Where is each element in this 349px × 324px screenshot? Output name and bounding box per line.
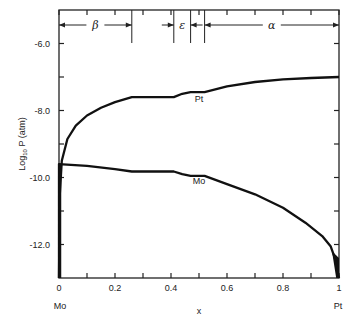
chart: βεα PtMo 00.20.40.60.81-6.0-8.0-10.0-12.… [0,0,349,324]
x-end-label-pt: Pt [334,301,343,311]
curve-label-mo: Mo [193,176,206,186]
x-tick-label: 0.8 [277,283,290,293]
y-axis-title: Log10 P (atm) [17,117,28,171]
y-tick-label: -8.0 [34,106,50,116]
y-tick-label: -6.0 [34,39,50,49]
phase-label-epsilon: ε [179,19,185,32]
x-axis-title: x [197,306,202,316]
phase-label-beta: β [91,19,98,32]
x-tick-label: 1 [336,283,341,293]
plot-border [59,10,339,278]
arrow-head [168,23,174,28]
x-tick-label: 0.6 [221,283,234,293]
arrow-head [126,23,132,28]
arrow-head [205,23,211,28]
arrow-head [333,23,339,28]
axis-ticks [59,10,339,278]
x-tick-label: 0.4 [165,283,178,293]
y-tick-label: -10.0 [29,173,50,183]
curve-label-pt: Pt [195,94,204,104]
data-curves: PtMo [59,77,339,278]
arrow-head [191,23,197,28]
x-tick-label: 0 [56,283,61,293]
phase-label-alpha: α [268,19,276,32]
arrow-head [59,23,65,28]
axis-labels: 00.20.40.60.81-6.0-8.0-10.0-12.0MoPtxLog… [17,39,343,317]
plot-frame [59,10,339,278]
right-edge-curve [332,251,339,278]
x-tick-label: 0.2 [109,283,122,293]
x-end-label-mo: Mo [54,301,67,311]
y-tick-label: -12.0 [29,240,50,250]
